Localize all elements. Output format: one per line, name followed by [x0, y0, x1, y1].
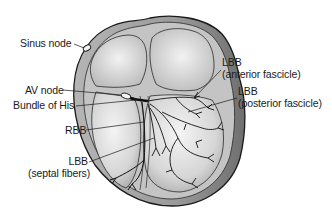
- label-sinus-node: Sinus node: [20, 37, 72, 49]
- label-bundle-of-his: Bundle of His: [13, 99, 74, 111]
- label-lbb-anterior: LBB (anterior fascicle): [222, 56, 301, 80]
- left-atrium: [150, 29, 214, 91]
- label-lbb-septal-line1: LBB: [28, 155, 88, 167]
- leader-sinus-node: [74, 44, 84, 48]
- label-lbb-posterior-line1: LBB: [238, 85, 322, 97]
- label-lbb-anterior-line2: (anterior fascicle): [222, 68, 301, 80]
- label-av-node: AV node: [25, 84, 64, 96]
- label-lbb-posterior-line2: (posterior fascicle): [238, 97, 322, 109]
- right-ventricle: [92, 92, 141, 188]
- label-lbb-posterior: LBB (posterior fascicle): [238, 85, 322, 109]
- label-rbb: RBB: [65, 124, 86, 136]
- label-lbb-anterior-line1: LBB: [222, 56, 301, 68]
- label-lbb-septal-line2: (septal fibers): [28, 167, 88, 179]
- label-lbb-septal: LBB (septal fibers): [28, 155, 88, 179]
